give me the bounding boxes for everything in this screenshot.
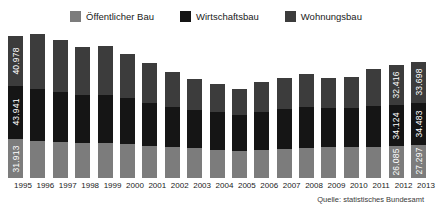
bar-segment-ffentlicher-bau-1995: 31.913: [8, 139, 23, 178]
x-tick-2012: 2012: [392, 180, 416, 192]
bar-1999[interactable]: [98, 46, 113, 178]
bar-value-label: 40.978: [11, 47, 20, 74]
bar-2012[interactable]: 32.41634.12426.085: [389, 65, 404, 178]
bar-segment-wirtschaftsbau-2003: [187, 110, 202, 149]
legend-item-label: Wirtschaftsbau: [196, 11, 259, 22]
bar-segment-wohnungsbau-2008: [299, 74, 314, 106]
bar-value-label: 34.483: [414, 110, 423, 137]
bar-segment-wirtschaftsbau-2006: [254, 112, 269, 150]
bar-segment-ffentlicher-bau-1997: [53, 142, 68, 178]
source-note: Quelle: statistisches Bundesamt: [317, 195, 424, 205]
bar-segment-wohnungsbau-1999: [98, 46, 113, 95]
bar-2009[interactable]: [321, 78, 336, 178]
bar-value-label: 43.941: [11, 99, 20, 126]
bar-segment-wirtschaftsbau-1998: [75, 95, 90, 143]
bar-segment-wohnungsbau-1996: [30, 34, 45, 88]
x-tick-2005: 2005: [235, 180, 259, 192]
x-tick-1998: 1998: [78, 180, 102, 192]
x-tick-2004: 2004: [213, 180, 237, 192]
bar-value-label: 32.416: [392, 71, 401, 98]
bar-segment-ffentlicher-bau-1996: [30, 141, 45, 178]
bar-2005[interactable]: [232, 89, 247, 178]
bar-1995[interactable]: 40.97843.94131.913: [8, 36, 23, 178]
bar-segment-wohnungsbau-2004: [210, 84, 225, 112]
bar-segment-wirtschaftsbau-2000: [120, 98, 135, 144]
bar-segment-wohnungsbau-2010: [344, 77, 359, 107]
bar-segment-ffentlicher-bau-2010: [344, 147, 359, 178]
legend-item-2[interactable]: Wohnungsbau: [285, 11, 362, 22]
bar-segment-wohnungsbau-2007: [277, 78, 292, 109]
bar-segment-ffentlicher-bau-2006: [254, 150, 269, 178]
bar-2006[interactable]: [254, 82, 269, 178]
bar-segment-wohnungsbau-2011: [366, 69, 381, 106]
bar-2003[interactable]: [187, 79, 202, 178]
bar-2008[interactable]: [299, 74, 314, 178]
bar-2000[interactable]: [120, 54, 135, 178]
bar-segment-ffentlicher-bau-2005: [232, 151, 247, 178]
legend-swatch-icon: [180, 11, 191, 22]
bar-segment-wirtschaftsbau-2004: [210, 112, 225, 149]
x-axis: 1995199619971998199920002001200220032004…: [8, 180, 426, 192]
bar-segment-wohnungsbau-2013: 33.698: [411, 62, 426, 103]
bar-2010[interactable]: [344, 77, 359, 178]
bar-segment-wohnungsbau-2012: 32.416: [389, 65, 404, 104]
bar-2002[interactable]: [165, 72, 180, 178]
bar-segment-ffentlicher-bau-2012: 26.085: [389, 146, 404, 178]
bar-segment-wohnungsbau-1995: 40.978: [8, 36, 23, 86]
bar-1997[interactable]: [53, 40, 68, 178]
bar-segment-ffentlicher-bau-2013: 27.297: [411, 145, 426, 178]
bar-segment-wirtschaftsbau-2013: 34.483: [411, 103, 426, 145]
bar-value-label: 26.085: [392, 149, 401, 176]
bar-segment-wohnungsbau-1998: [75, 47, 90, 95]
bar-segment-wirtschaftsbau-2001: [142, 103, 157, 146]
x-tick-1997: 1997: [56, 180, 80, 192]
legend-item-0[interactable]: Öffentlicher Bau: [70, 11, 154, 22]
legend-item-label: Wohnungsbau: [301, 11, 362, 22]
bar-segment-wirtschaftsbau-1995: 43.941: [8, 86, 23, 139]
x-tick-2009: 2009: [324, 180, 348, 192]
bar-2013[interactable]: 33.69834.48327.297: [411, 62, 426, 178]
bar-segment-wohnungsbau-2002: [165, 72, 180, 107]
x-tick-2003: 2003: [190, 180, 214, 192]
bar-value-label: 31.913: [11, 145, 20, 172]
bar-segment-wirtschaftsbau-2005: [232, 115, 247, 151]
x-tick-2011: 2011: [369, 180, 393, 192]
x-tick-2000: 2000: [123, 180, 147, 192]
bar-2007[interactable]: [277, 78, 292, 178]
bar-segment-wirtschaftsbau-1996: [30, 89, 45, 141]
bar-segment-wohnungsbau-2000: [120, 54, 135, 98]
bar-segment-ffentlicher-bau-2007: [277, 149, 292, 178]
x-tick-2006: 2006: [257, 180, 281, 192]
legend-swatch-icon: [70, 11, 81, 22]
x-tick-2010: 2010: [347, 180, 371, 192]
legend-swatch-icon: [285, 11, 296, 22]
x-tick-2001: 2001: [145, 180, 169, 192]
bar-2004[interactable]: [210, 84, 225, 178]
bar-segment-ffentlicher-bau-2001: [142, 146, 157, 178]
bar-segment-wohnungsbau-2005: [232, 89, 247, 115]
bar-1996[interactable]: [30, 34, 45, 178]
plot-area: 40.97843.94131.91332.41634.12426.08533.6…: [8, 26, 426, 178]
x-tick-2002: 2002: [168, 180, 192, 192]
bar-segment-ffentlicher-bau-2004: [210, 150, 225, 178]
bar-2011[interactable]: [366, 69, 381, 178]
x-tick-2007: 2007: [280, 180, 304, 192]
legend-item-label: Öffentlicher Bau: [86, 11, 154, 22]
x-tick-1999: 1999: [101, 180, 125, 192]
bar-segment-wirtschaftsbau-2009: [321, 108, 336, 147]
bar-segment-ffentlicher-bau-2000: [120, 144, 135, 178]
bar-segment-ffentlicher-bau-2011: [366, 147, 381, 178]
legend-item-1[interactable]: Wirtschaftsbau: [180, 11, 259, 22]
bar-segment-wohnungsbau-2003: [187, 79, 202, 110]
bar-segment-ffentlicher-bau-2003: [187, 148, 202, 178]
bar-1998[interactable]: [75, 47, 90, 178]
bar-segment-wirtschaftsbau-2002: [165, 107, 180, 147]
chart-legend: Öffentlicher BauWirtschaftsbauWohnungsba…: [0, 8, 432, 24]
bar-segment-ffentlicher-bau-2009: [321, 147, 336, 178]
bar-segment-wohnungsbau-2009: [321, 78, 336, 108]
bar-2001[interactable]: [142, 63, 157, 178]
bar-segment-ffentlicher-bau-2002: [165, 147, 180, 178]
bar-segment-wirtschaftsbau-1999: [98, 95, 113, 143]
bar-value-label: 33.698: [414, 69, 423, 96]
